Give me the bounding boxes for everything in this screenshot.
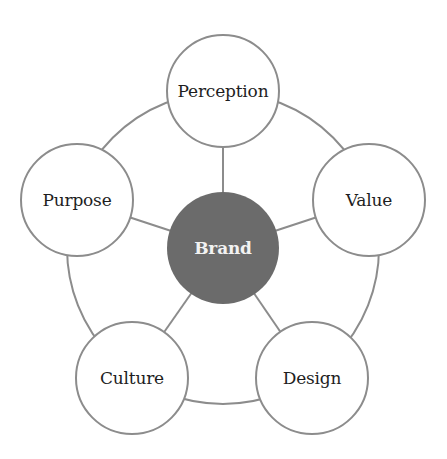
label-purpose: Purpose	[42, 190, 111, 210]
label-perception: Perception	[178, 81, 269, 101]
label-brand: Brand	[194, 238, 252, 258]
label-value: Value	[346, 190, 392, 210]
label-design: Design	[283, 368, 341, 388]
brand-diagram	[0, 0, 447, 459]
label-culture: Culture	[100, 368, 164, 388]
